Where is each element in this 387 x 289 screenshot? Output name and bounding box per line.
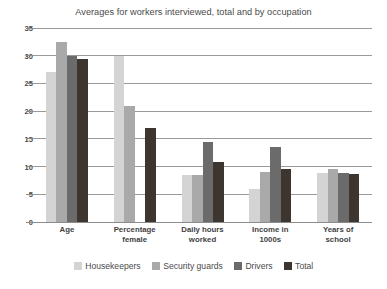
bar [317,173,328,222]
y-tick-mark [26,138,33,139]
bar [249,189,260,222]
y-tick-mark [26,55,33,56]
x-tick-label: Age [33,225,101,235]
chart-legend: HousekeepersSecurity guardsDriversTotal [0,261,387,271]
y-tick-mark [26,222,33,223]
bar [213,162,224,222]
legend-label: Drivers [245,261,272,271]
bar-group [249,28,291,222]
bar-group [114,28,156,222]
bar [260,172,271,222]
legend-item: Drivers [234,261,273,271]
bar [281,169,292,222]
chart-title: Averages for workers interviewed, total … [0,7,387,17]
bar [114,56,125,222]
legend-item: Security guards [152,261,223,271]
bar-chart: Averages for workers interviewed, total … [0,0,387,289]
bar-group [317,28,359,222]
bar [145,128,156,222]
bar [349,174,360,222]
bar [192,175,203,222]
bar [328,169,339,222]
bar [124,106,135,222]
bar [270,147,281,222]
y-tick-mark [26,28,33,29]
bar [46,72,57,222]
y-tick-mark [26,194,33,195]
bar [338,173,349,222]
y-tick-mark [26,111,33,112]
plot-area [33,28,372,222]
y-tick-mark [26,83,33,84]
bar-group [182,28,224,222]
x-tick-label: Income in1000s [236,225,304,244]
legend-label: Housekeepers [85,261,140,271]
legend-item: Housekeepers [74,261,141,271]
legend-swatch-icon [152,262,160,270]
x-tick-label: Percentagefemale [101,225,169,244]
legend-swatch-icon [74,262,82,270]
bar [77,59,88,223]
bar-group [46,28,88,222]
x-axis-labels: AgePercentagefemaleDaily hoursworkedInco… [33,225,372,257]
x-tick-label: Years ofschool [304,225,372,244]
bar [182,175,193,222]
legend-swatch-icon [284,262,292,270]
bar [56,42,67,222]
y-tick-mark [26,166,33,167]
y-axis: 05101520253035 [0,28,33,222]
bar [203,142,214,222]
legend-label: Security guards [163,261,223,271]
legend-label: Total [295,261,313,271]
legend-item: Total [284,261,314,271]
legend-swatch-icon [234,262,242,270]
x-tick-label: Daily hoursworked [169,225,237,244]
bar [67,56,78,222]
